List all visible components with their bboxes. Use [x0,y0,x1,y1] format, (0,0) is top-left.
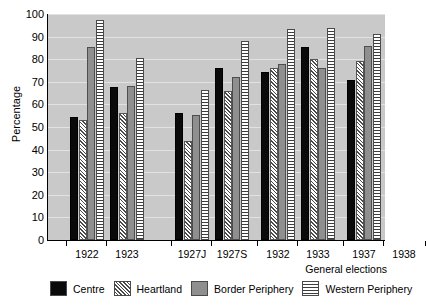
y-tick-label: 100 [26,8,44,20]
bar-group [70,14,104,240]
x-axis-line [47,240,385,241]
bar [119,113,127,240]
bar [201,90,209,240]
x-tick-mark [211,241,212,246]
bar [310,59,318,240]
legend-swatch [114,281,131,296]
y-axis-line [47,14,48,241]
bar [79,120,87,240]
y-tick-label: 50 [32,121,44,133]
x-tick-label: 1937 [352,248,375,260]
x-tick-mark [297,241,298,246]
bar [127,86,135,240]
x-tick-label: 1927J [178,248,207,260]
bar-group [215,14,249,240]
bar [70,117,78,240]
legend-item: Centre [50,281,105,296]
bar [318,68,326,240]
bar [278,64,286,240]
y-tick-label: 20 [32,189,44,201]
y-axis-tick-labels: 0102030405060708090100 [18,14,44,240]
x-tick-mark [106,241,107,246]
bar [232,77,240,240]
plot-area [48,14,385,240]
bar [356,61,364,240]
legend-swatch [50,281,67,296]
legend-item: Western Periphery [302,281,412,296]
bar [261,72,269,240]
bar-group [175,14,209,240]
bar [87,47,95,240]
bar-group [261,14,295,240]
legend-label: Centre [73,283,105,295]
bar [301,47,309,240]
x-tick-mark [383,241,384,246]
y-tick-label: 0 [38,234,44,246]
x-tick-label: 1922 [75,248,98,260]
bar [373,34,381,240]
bar [175,113,183,240]
legend-label: Western Periphery [325,283,412,295]
bar-group [347,14,381,240]
chart-legend: CentreHeartlandBorder PeripheryWestern P… [50,281,412,296]
bar-group [301,14,335,240]
y-tick-label: 80 [32,53,44,65]
legend-swatch [302,281,319,296]
y-tick-label: 10 [32,211,44,223]
bar [192,115,200,240]
bar-group [110,14,144,240]
bar [347,80,355,240]
bar [327,28,335,240]
y-tick-label: 70 [32,76,44,88]
x-tick-label: 1927S [217,248,247,260]
x-tick-label: 1938 [392,248,415,260]
legend-item: Heartland [114,281,183,296]
legend-label: Border Periphery [214,283,293,295]
bar [364,46,372,240]
y-tick-label: 90 [32,31,44,43]
x-tick-label: 1933 [306,248,329,260]
bar [241,41,249,240]
legend-item: Border Periphery [191,281,293,296]
bar [215,68,223,240]
legend-swatch [191,281,208,296]
x-tick-mark [257,241,258,246]
x-tick-mark [66,241,67,246]
x-tick-label: 1932 [266,248,289,260]
bar [96,20,104,240]
x-tick-label: 1923 [115,248,138,260]
bar [110,87,118,240]
legend-label: Heartland [137,283,183,295]
y-tick-label: 60 [32,98,44,110]
bar [224,91,232,240]
bar [287,29,295,240]
bar [270,68,278,240]
bar [136,58,144,240]
x-tick-mark [171,241,172,246]
bar [184,141,192,240]
y-tick-label: 30 [32,166,44,178]
y-tick-label: 40 [32,144,44,156]
x-tick-mark [343,241,344,246]
x-axis-title: General elections [305,263,387,275]
